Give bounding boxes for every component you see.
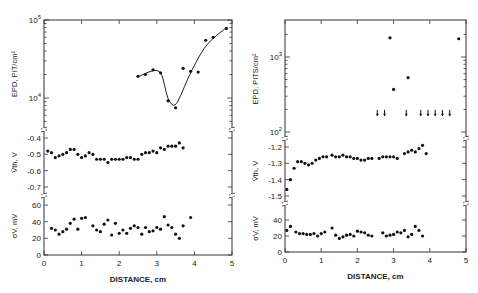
down-arrow-icon (448, 114, 451, 117)
data-point (144, 151, 147, 154)
data-point (367, 157, 370, 160)
data-point (285, 188, 288, 191)
data-point (388, 234, 391, 237)
data-point (174, 106, 177, 109)
data-point (151, 68, 154, 71)
data-point (170, 226, 173, 229)
data-point (110, 158, 113, 161)
data-point (414, 225, 417, 228)
x-tick-label: 3 (391, 256, 396, 265)
data-point (388, 36, 391, 39)
data-point (359, 158, 362, 161)
x-tick-label: 0 (42, 259, 47, 268)
data-point (151, 229, 154, 232)
data-point (121, 228, 124, 231)
down-arrow-icon (376, 114, 379, 117)
data-point (110, 233, 113, 236)
x-tick-label: 3 (155, 259, 160, 268)
data-point (307, 163, 310, 166)
data-point (103, 223, 106, 226)
data-point (325, 155, 328, 158)
data-point (133, 224, 136, 227)
data-point (166, 223, 169, 226)
fit-curve (138, 28, 226, 105)
data-point (392, 233, 395, 236)
data-point (392, 88, 395, 91)
data-point (289, 178, 292, 181)
y-axis-label: EPD, PITS/cm² (251, 53, 260, 104)
data-point (189, 70, 192, 73)
y-tick-label: -1.4 (268, 176, 282, 185)
down-arrow-icon (441, 114, 444, 117)
data-point (163, 148, 166, 151)
data-point (80, 156, 83, 159)
y-tick-label: 40 (273, 216, 282, 225)
data-point (159, 228, 162, 231)
data-point (106, 218, 109, 221)
x-tick-label: 5 (464, 256, 469, 265)
data-point (118, 232, 121, 235)
data-point (88, 151, 91, 154)
data-point (370, 157, 373, 160)
y-tick-label: 40 (32, 218, 41, 227)
y-axis-label: σV, mV (251, 216, 260, 240)
data-point (349, 155, 352, 158)
y-tick-label: 20 (32, 234, 41, 243)
data-point (57, 154, 60, 157)
y-tick-label: 105 (29, 14, 42, 25)
data-point (159, 71, 162, 74)
y-tick-label: 0 (278, 248, 283, 257)
data-point (76, 153, 79, 156)
down-arrow-icon (426, 114, 429, 117)
data-point (330, 154, 333, 157)
y-axis-label: EPD, PIT/cm² (10, 51, 19, 97)
data-point (95, 158, 98, 161)
data-point (300, 160, 303, 163)
data-point (50, 151, 53, 154)
x-axis-label: DISTANCE, cm (347, 272, 403, 281)
data-point (314, 158, 317, 161)
data-point (212, 36, 215, 39)
data-point (323, 230, 326, 233)
data-point (65, 151, 68, 154)
data-point (61, 230, 64, 233)
data-point (406, 235, 409, 238)
data-point (114, 222, 117, 225)
data-point (457, 37, 460, 40)
data-point (294, 230, 297, 233)
y-tick-label: 104 (29, 92, 42, 103)
data-point (312, 232, 315, 235)
y-axis-label: V̄th, V (251, 161, 260, 181)
data-point (50, 227, 53, 230)
data-point (338, 155, 341, 158)
data-point (182, 146, 185, 149)
right-figure: 012345DISTANCE, cm102103EPD, PITS/cm²-1.… (251, 20, 469, 281)
data-point (363, 158, 366, 161)
data-point (385, 155, 388, 158)
data-point (396, 230, 399, 233)
x-tick-label: 4 (428, 256, 433, 265)
y-tick-label: 20 (273, 232, 282, 241)
data-point (140, 233, 143, 236)
data-point (316, 234, 319, 237)
data-point (61, 153, 64, 156)
data-point (84, 154, 87, 157)
data-point (320, 232, 323, 235)
data-point (292, 167, 295, 170)
y-tick-label: 102 (270, 126, 283, 137)
data-point (65, 228, 68, 231)
data-point (305, 233, 308, 236)
data-point (318, 157, 321, 160)
data-point (356, 230, 359, 233)
data-point (399, 231, 402, 234)
data-point (114, 158, 117, 161)
data-point (166, 99, 169, 102)
y-tick-label: 0 (37, 251, 42, 260)
x-tick-label: 1 (319, 256, 324, 265)
data-point (174, 145, 177, 148)
data-point (410, 149, 413, 152)
data-point (334, 155, 337, 158)
data-point (159, 146, 162, 149)
chart-canvas: 012345DISTANCE, cm104105EPD, PIT/cm²-0.4… (0, 0, 478, 293)
y-tick-label: -0.4 (27, 134, 41, 143)
